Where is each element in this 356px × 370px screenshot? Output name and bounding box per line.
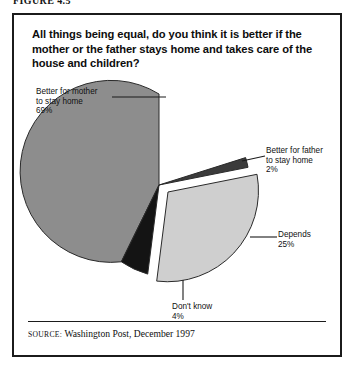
pie-label-value: 4% xyxy=(172,312,212,322)
pie-slice-better-for-father[interactable] xyxy=(159,158,248,185)
source-prefix: SOURCE: xyxy=(28,330,62,339)
source-text: Washington Post, December 1997 xyxy=(64,328,194,339)
pie-label-line1: Don't know xyxy=(172,302,212,312)
pie-label-value: 2% xyxy=(266,165,323,175)
figure-question-title: All things being equal, do you think it … xyxy=(32,27,328,71)
pie-label-line2: to stay home xyxy=(266,156,323,166)
pie-label-line2: to stay home xyxy=(36,97,97,107)
pie-label-line1: Depends xyxy=(278,230,311,240)
pie-label-dont-know: Don't know 4% xyxy=(172,302,212,321)
pie-slice-depends[interactable] xyxy=(157,174,259,281)
source-divider xyxy=(28,321,326,322)
pie-label-line1: Better for mother xyxy=(36,87,97,97)
pie-label-line1: Better for father xyxy=(266,146,323,156)
pie-label-better-for-father: Better for father to stay home 2% xyxy=(266,146,323,175)
pie-label-better-for-mother: Better for mother to stay home 69% xyxy=(36,87,97,116)
figure-number: FIGURE 4.5 xyxy=(13,0,71,4)
source-line: SOURCE: Washington Post, December 1997 xyxy=(28,328,195,339)
figure-root: FIGURE 4.5 All things being equal, do yo… xyxy=(0,0,356,370)
pie-label-depends: Depends 25% xyxy=(278,230,311,249)
pie-label-value: 69% xyxy=(36,106,97,116)
leader-line-father xyxy=(242,156,265,161)
pie-slice-depends-group xyxy=(157,174,259,281)
pie-label-value: 25% xyxy=(278,240,311,250)
pie-slice-dont-know[interactable] xyxy=(121,185,159,274)
figure-panel: All things being equal, do you think it … xyxy=(12,13,342,357)
